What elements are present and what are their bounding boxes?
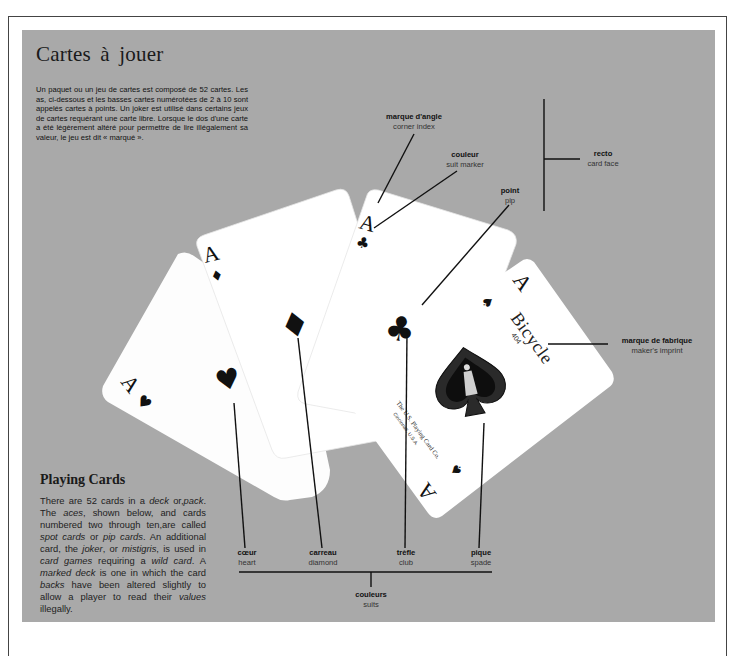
english-term: pack bbox=[184, 495, 204, 506]
label-suits-fr: couleurs bbox=[346, 590, 396, 600]
label-heart-en: heart bbox=[232, 558, 262, 568]
label-club-en: club bbox=[389, 558, 423, 568]
label-diamond-fr: carreau bbox=[300, 548, 346, 558]
label-pip-fr: point bbox=[490, 186, 530, 196]
french-title: Cartes à jouer bbox=[36, 42, 163, 67]
label-card-face-fr: recto bbox=[578, 149, 628, 159]
english-text: is one in which the card bbox=[95, 567, 206, 578]
label-card-face: recto card face bbox=[578, 149, 628, 169]
english-term: card games bbox=[40, 555, 92, 566]
label-heart-fr: cœur bbox=[232, 548, 262, 558]
english-text: , or bbox=[103, 543, 122, 554]
label-club-fr: trèfle bbox=[389, 548, 423, 558]
french-description: Un paquet ou un jeu de cartes est compos… bbox=[36, 85, 248, 143]
label-diamond: carreau diamond bbox=[300, 548, 346, 568]
english-term: spot cards bbox=[40, 531, 85, 542]
label-spade-en: spade bbox=[464, 558, 498, 568]
label-club: trèfle club bbox=[389, 548, 423, 568]
english-term: deck bbox=[149, 495, 169, 506]
label-makers-imprint: marque de fabrique maker's imprint bbox=[612, 336, 702, 356]
label-makers-imprint-en: maker's imprint bbox=[612, 346, 702, 356]
label-pip-en: pip bbox=[490, 196, 530, 206]
english-text: or bbox=[85, 531, 103, 542]
english-text: . A bbox=[192, 555, 206, 566]
label-card-face-en: card face bbox=[578, 159, 628, 169]
english-term: marked deck bbox=[40, 567, 95, 578]
english-text: or, bbox=[169, 495, 184, 506]
label-suits: couleurs suits bbox=[346, 590, 396, 610]
label-pip: point pip bbox=[490, 186, 530, 206]
english-term: aces bbox=[63, 507, 83, 518]
english-term: backs bbox=[40, 579, 65, 590]
label-heart: cœur heart bbox=[232, 548, 262, 568]
leader-corner-index bbox=[378, 134, 414, 203]
label-spade: pique spade bbox=[464, 548, 498, 568]
english-text: , is used in bbox=[156, 543, 206, 554]
label-suits-en: suits bbox=[346, 600, 396, 610]
english-description: There are 52 cards in a deck or,pack. Th… bbox=[40, 495, 206, 615]
english-term: pip cards bbox=[103, 531, 143, 542]
english-title: Playing Cards bbox=[40, 472, 125, 488]
english-term: joker bbox=[82, 543, 102, 554]
english-term: values bbox=[179, 591, 206, 602]
label-corner-index-en: corner index bbox=[367, 122, 461, 132]
label-suit-marker: couleur suit marker bbox=[430, 150, 500, 170]
label-suit-marker-en: suit marker bbox=[430, 160, 500, 170]
english-text: requiring a bbox=[92, 555, 151, 566]
label-corner-index: marque d'angle corner index bbox=[367, 112, 461, 132]
english-text: illegally. bbox=[40, 603, 73, 614]
english-term: mistigris bbox=[122, 543, 156, 554]
label-suit-marker-fr: couleur bbox=[430, 150, 500, 160]
label-makers-imprint-fr: marque de fabrique bbox=[612, 336, 702, 346]
label-spade-fr: pique bbox=[464, 548, 498, 558]
english-text: There are 52 cards in a bbox=[40, 495, 149, 506]
english-term: wild card bbox=[152, 555, 192, 566]
label-corner-index-fr: marque d'angle bbox=[367, 112, 461, 122]
label-diamond-en: diamond bbox=[300, 558, 346, 568]
